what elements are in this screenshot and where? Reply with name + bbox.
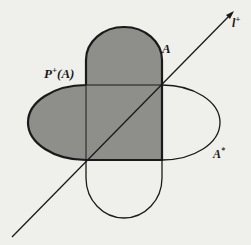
label-line: l+ xyxy=(232,14,240,30)
right-lobe xyxy=(162,85,220,160)
label-projection: P+(A) xyxy=(44,65,74,81)
diagram-canvas: l+ A P+(A) A* xyxy=(0,0,251,245)
label-set-a: A xyxy=(161,41,171,56)
bottom-lobe xyxy=(86,160,162,218)
label-set-a-star: A* xyxy=(212,146,226,161)
